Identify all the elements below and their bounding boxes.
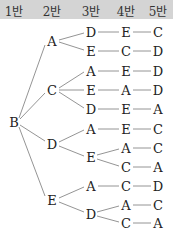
tree-node-e-2a-5: C [153, 199, 163, 212]
tree-node-c-1-5: D [153, 65, 163, 78]
tree-node-a-2-3: E [86, 45, 96, 58]
tree-node-d-2a-4: A [121, 142, 130, 155]
tree-node-c-1-4: E [121, 65, 131, 78]
tree-node-d-2b-4: C [121, 161, 131, 174]
tree-node-e-2b-4: C [121, 217, 131, 230]
tree-node-c-2-4: A [121, 84, 130, 97]
tree-node-d-1-4: E [121, 123, 131, 136]
tree-node-e-1-4: C [121, 180, 131, 193]
tree-node-e-1-5: D [153, 180, 163, 193]
tree-node-a-1-5: C [153, 26, 163, 39]
tree-node-c-3-4: E [121, 103, 131, 116]
tree-node-root-b: B [9, 116, 19, 129]
tree-node-d-2a-5: C [153, 142, 163, 155]
tree-node-d-2-3: E [86, 151, 96, 164]
tree-node-e-2-3: D [86, 208, 96, 221]
tree-node-a-1-3: D [86, 26, 96, 39]
tree-node-d-1-5: C [153, 123, 163, 136]
tree-node-a-2-5: D [153, 45, 163, 58]
tree-node-a: A [47, 35, 56, 48]
tree-node-d: D [47, 138, 57, 151]
tree-node-a-2-4: C [121, 45, 131, 58]
tree-node-c-2-3: E [86, 84, 96, 97]
tree-node-d-1-3: A [86, 123, 95, 136]
tree-node-a-1-4: E [121, 26, 131, 39]
tree-node-e-2b-5: A [153, 217, 162, 230]
tree-node-c-3-5: A [153, 103, 162, 116]
tree-node-e-2a-4: A [121, 199, 130, 212]
tree-node-c-3-3: D [86, 103, 96, 116]
tree-node-e: E [47, 194, 57, 207]
tree-node-d-2b-5: A [153, 161, 162, 174]
tree-node-e-1-3: A [86, 180, 95, 193]
tree-node-c: C [47, 84, 57, 97]
tree-node-c-1-3: A [86, 65, 95, 78]
tree-node-c-2-5: D [153, 84, 163, 97]
